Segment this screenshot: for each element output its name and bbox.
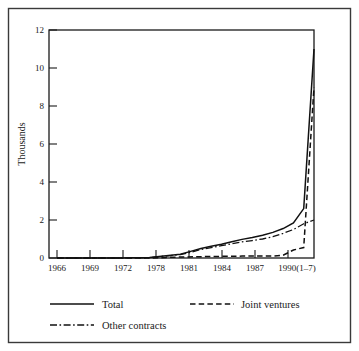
legend-label-total: Total <box>102 299 124 310</box>
legend-label-joint-ventures: Joint ventures <box>241 299 300 310</box>
line-chart: 0 2 4 6 8 10 12 Thousands 1966 1969 1972… <box>0 0 359 351</box>
x-tick-label: 1972 <box>114 263 132 273</box>
x-tick-label: 1966 <box>48 263 67 273</box>
y-tick-label: 2 <box>40 215 45 225</box>
y-axis-title: Thousands <box>16 122 27 165</box>
y-tick-label: 12 <box>35 25 44 35</box>
x-tick-label: 1987 <box>246 263 265 273</box>
y-tick-label: 6 <box>40 139 45 149</box>
x-tick-label: 1984 <box>213 263 232 273</box>
y-tick-label: 8 <box>40 101 45 111</box>
figure-container: 0 2 4 6 8 10 12 Thousands 1966 1969 1972… <box>0 0 359 351</box>
x-tick-label: 1978 <box>147 263 166 273</box>
y-tick-label: 0 <box>40 253 45 263</box>
x-tick-label: 1990(1–7) <box>278 263 316 273</box>
x-tick-label: 1969 <box>81 263 100 273</box>
y-tick-label: 4 <box>40 177 45 187</box>
y-tick-label: 10 <box>35 63 45 73</box>
legend-label-other-contracts: Other contracts <box>102 320 166 331</box>
x-tick-label: 1981 <box>180 263 198 273</box>
figure-border <box>9 9 351 343</box>
